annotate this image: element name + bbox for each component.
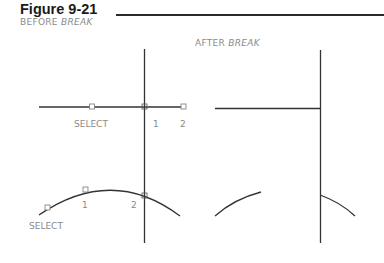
after-arc-right-segment [320,195,355,216]
point2-pickbox-icon [181,104,186,109]
arc-point2-label: 2 [131,200,137,210]
line-select-label: SELECT [74,119,108,129]
arc-point1-pickbox-icon [83,187,88,192]
arc-select-pickbox-icon [45,205,50,210]
select-pickbox-icon [90,104,95,109]
line-point1-label: 1 [153,119,159,129]
arc-select-label: SELECT [29,221,63,231]
before-arc [39,190,180,216]
line-point2-label: 2 [180,119,186,129]
after-arc-left-segment [215,192,261,216]
arc-point1-label: 1 [82,200,88,210]
